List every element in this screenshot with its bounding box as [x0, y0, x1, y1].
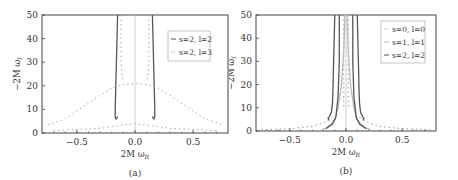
y-tick-label: 50 [241, 10, 253, 20]
x-tick-label: 0.0 [128, 137, 143, 147]
x-tick-label: −0.5 [66, 137, 88, 147]
panel-a: 01020304050−0.50.00.52M ωR−2M ωI(a)s=2, … [0, 0, 229, 180]
panel-label: (b) [340, 166, 353, 176]
y-tick-label: 0 [32, 128, 38, 138]
legend-entry: s=2, l=2 [392, 51, 425, 60]
y-tick-label: 50 [27, 10, 39, 20]
x-tick-label: −0.5 [279, 135, 301, 145]
x-axis-label: 2M ωR [121, 149, 150, 160]
y-tick-label: 20 [241, 80, 253, 90]
y-axis-label: −2M ωI [229, 56, 237, 90]
legend-entry: s=0, l=0 [392, 25, 425, 34]
y-axis-label: −2M ωI [12, 57, 23, 91]
y-tick-label: 30 [27, 57, 39, 67]
x-tick-label: 0.0 [339, 135, 354, 145]
x-tick-label: 0.5 [186, 137, 201, 147]
legend-entry: s=1, l=1 [392, 38, 425, 47]
y-tick-label: 30 [241, 56, 253, 66]
legend-entry: s=2, l=2 [179, 35, 212, 44]
x-tick-label: 0.5 [395, 135, 410, 145]
y-tick-label: 20 [27, 81, 39, 91]
panel-label: (a) [129, 168, 141, 178]
chart-b: 01020304050−0.50.00.52M ωR−2M ωI(b)s=0, … [229, 0, 458, 180]
y-tick-label: 0 [246, 126, 252, 136]
x-axis-label: 2M ωR [332, 147, 361, 158]
panel-b: 01020304050−0.50.00.52M ωR−2M ωI(b)s=0, … [229, 0, 458, 180]
y-tick-label: 10 [27, 104, 39, 114]
y-tick-label: 10 [241, 103, 253, 113]
legend-entry: s=2, l=3 [179, 48, 212, 57]
chart-a: 01020304050−0.50.00.52M ωR−2M ωI(a)s=2, … [0, 0, 229, 180]
y-tick-label: 40 [27, 34, 39, 44]
y-tick-label: 40 [241, 33, 253, 43]
